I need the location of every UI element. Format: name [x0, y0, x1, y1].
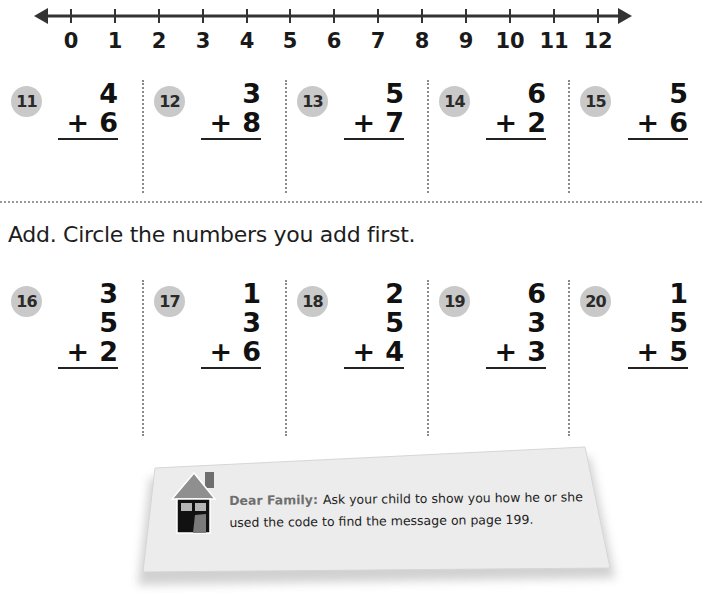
family-note-text: Dear Family:Ask your child to show you h… [229, 486, 589, 534]
family-note-lead: Dear Family: [229, 492, 318, 508]
